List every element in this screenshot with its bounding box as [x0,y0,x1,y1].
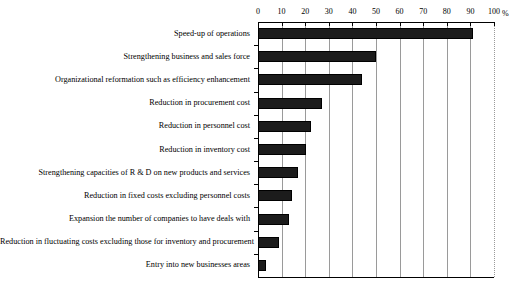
x-tick-100 [494,22,495,26]
category-label: Entry into new businesses areas [0,260,254,270]
x-tick-label-0: 0 [245,7,271,16]
category-label: Reduction in fixed costs excluding perso… [0,191,254,201]
x-tick-label-60: 60 [387,7,413,16]
gridline-70 [423,22,424,277]
category-label: Organizational reformation such as effic… [0,75,254,85]
bar [258,144,306,155]
bar [258,28,473,39]
bar [258,190,292,201]
x-tick-label-30: 30 [316,7,342,16]
bar [258,214,289,225]
category-label: Strengthening capacities of R & D on new… [0,168,254,178]
axis-top-line [258,22,494,23]
bar-chart: 0102030405060708090100 % Speed-up of ope… [0,0,524,288]
x-tick-label-40: 40 [339,7,365,16]
x-tick-label-80: 80 [434,7,460,16]
bar [258,167,298,178]
bar [258,260,266,271]
x-tick-label-10: 10 [269,7,295,16]
gridline-50 [376,22,377,277]
x-tick-label-50: 50 [363,7,389,16]
bar [258,74,362,85]
gridline-90 [470,22,471,277]
category-label: Expansion the number of companies to hav… [0,214,254,224]
bar [258,98,322,109]
x-tick-label-90: 90 [457,7,483,16]
x-axis-unit-label: % [502,9,509,18]
x-tick-label-20: 20 [292,7,318,16]
gridline-100 [494,22,495,277]
gridline-80 [447,22,448,277]
category-label: Strengthening business and sales force [0,52,254,62]
bar [258,51,376,62]
gridline-60 [400,22,401,277]
category-label: Reduction in fluctuating costs excluding… [0,237,254,247]
bar [258,237,279,248]
axis-bottom-line [258,277,494,278]
category-label: Reduction in inventory cost [0,145,254,155]
x-tick-label-70: 70 [410,7,436,16]
category-label: Reduction in procurement cost [0,98,254,108]
category-label: Speed-up of operations [0,29,254,39]
bar [258,121,311,132]
category-label: Reduction in personnel cost [0,121,254,131]
